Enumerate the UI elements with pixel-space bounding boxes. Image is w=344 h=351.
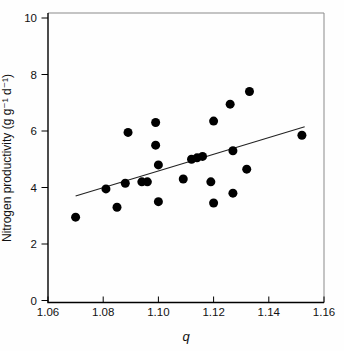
x-axis-label: q: [182, 329, 190, 344]
data-point: [101, 184, 110, 193]
y-tick-label: 4: [31, 182, 38, 194]
x-tick-label: 1.16: [313, 306, 335, 318]
scatter-plot-figure: 1.061.081.101.121.141.160246810 Nitrogen…: [0, 0, 344, 351]
data-marks: [71, 87, 306, 222]
x-tick-label: 1.10: [147, 306, 169, 318]
y-tick-label: 6: [31, 125, 37, 137]
data-point: [71, 213, 80, 222]
y-axis-label: Nitrogen productivity (g g⁻¹ d⁻¹): [0, 74, 14, 242]
data-point: [228, 146, 237, 155]
y-tick-label: 10: [24, 12, 37, 24]
plot-frame: [48, 13, 324, 303]
data-point: [297, 131, 306, 140]
x-tick-label: 1.12: [202, 306, 224, 318]
data-point: [209, 199, 218, 208]
data-point: [228, 189, 237, 198]
data-point: [151, 118, 160, 127]
data-point: [209, 117, 218, 126]
y-tick-label: 2: [31, 238, 37, 250]
data-point: [179, 175, 188, 184]
y-tick-label: 0: [31, 295, 37, 307]
data-point: [154, 160, 163, 169]
data-point: [206, 177, 215, 186]
data-point: [226, 100, 235, 109]
y-tick-label: 8: [31, 69, 37, 81]
scatter-plot-canvas: 1.061.081.101.121.141.160246810 Nitrogen…: [0, 0, 344, 351]
data-point: [242, 165, 251, 174]
x-tick-label: 1.08: [92, 306, 114, 318]
axes-lines: [48, 13, 324, 303]
x-tick-label: 1.14: [258, 306, 281, 318]
data-point: [121, 179, 130, 188]
data-point: [113, 203, 122, 212]
data-point: [151, 141, 160, 150]
data-point: [124, 128, 133, 137]
x-tick-label: 1.06: [37, 306, 59, 318]
data-point: [143, 177, 152, 186]
data-point: [245, 87, 254, 96]
data-point: [154, 197, 163, 206]
data-point: [198, 152, 207, 161]
